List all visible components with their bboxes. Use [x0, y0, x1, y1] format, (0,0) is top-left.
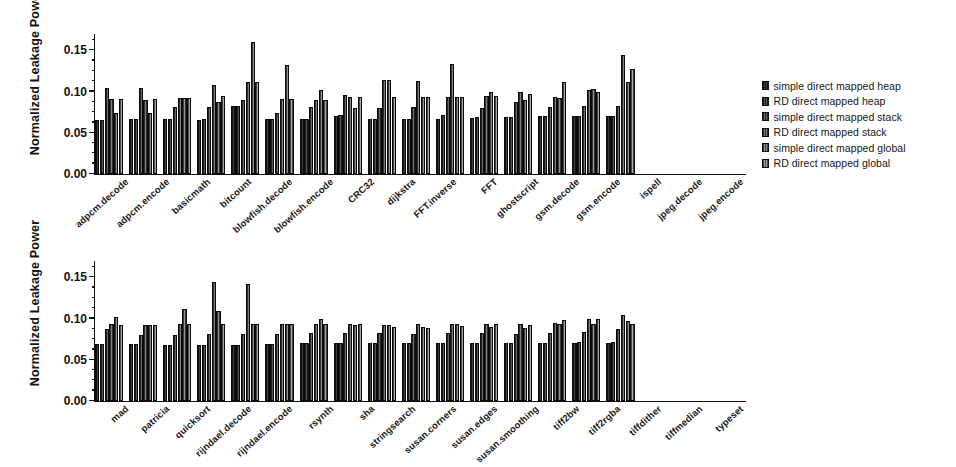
- bar-group: [197, 34, 225, 174]
- legend-item: RD direct mapped global: [762, 156, 956, 172]
- bar-group: [504, 261, 532, 401]
- bar: [139, 335, 143, 401]
- bar: [289, 99, 293, 174]
- bar: [616, 329, 620, 401]
- bar: [489, 92, 493, 174]
- bar: [548, 333, 552, 401]
- bar: [436, 343, 440, 401]
- bar-group: [538, 34, 566, 174]
- bar: [509, 343, 513, 401]
- bar: [460, 326, 464, 401]
- bar: [382, 80, 386, 174]
- plot-area-bottom: 0.000.050.100.15: [95, 267, 745, 401]
- bar-group: [572, 34, 600, 174]
- bar: [187, 324, 191, 401]
- bar: [426, 328, 430, 401]
- bar: [148, 325, 152, 401]
- bar: [251, 324, 255, 401]
- bar: [153, 325, 157, 401]
- legend-swatch-icon: [762, 143, 769, 152]
- bar: [265, 119, 269, 174]
- bar-groups-top: [95, 34, 745, 174]
- legend-item: RD direct mapped stack: [762, 125, 956, 141]
- bar: [216, 311, 220, 401]
- bar: [392, 327, 396, 401]
- x-axis-tick-label: quicksort: [172, 403, 212, 440]
- legend-swatch-icon: [762, 159, 769, 168]
- bar: [621, 315, 625, 401]
- bar: [148, 113, 152, 174]
- bar-group: [265, 261, 293, 401]
- bar: [470, 343, 474, 401]
- bar: [572, 116, 576, 174]
- bar: [216, 102, 220, 174]
- bar-group: [231, 34, 259, 174]
- bar: [450, 64, 454, 174]
- bar-group: [163, 34, 191, 174]
- bar: [168, 345, 172, 401]
- bar: [630, 69, 634, 174]
- bar: [480, 333, 484, 401]
- bar: [343, 333, 347, 401]
- y-axis-tick-label: 0.15: [64, 270, 87, 284]
- bar: [304, 119, 308, 174]
- bar: [221, 96, 225, 174]
- legend-swatch-icon: [762, 112, 769, 121]
- bar: [334, 343, 338, 401]
- bar-group: [334, 261, 362, 401]
- bar: [241, 100, 245, 174]
- legend-swatch-icon: [762, 97, 769, 106]
- bar: [543, 116, 547, 174]
- bar: [280, 324, 284, 401]
- bar: [163, 119, 167, 174]
- bar: [163, 345, 167, 401]
- bar-group: [572, 261, 600, 401]
- legend-item-label: simple direct mapped stack: [774, 111, 903, 123]
- bar: [343, 95, 347, 174]
- bar: [182, 309, 186, 401]
- bar: [178, 324, 182, 401]
- bar-group: [231, 261, 259, 401]
- bar: [100, 120, 104, 174]
- bar: [504, 117, 508, 174]
- legend: simple direct mapped heapRD direct mappe…: [762, 78, 956, 171]
- bar: [319, 319, 323, 401]
- bar: [538, 116, 542, 174]
- legend-item: simple direct mapped global: [762, 140, 956, 156]
- legend-item-label: RD direct mapped heap: [774, 95, 886, 107]
- bar: [411, 334, 415, 401]
- bar: [591, 324, 595, 401]
- bar-group: [95, 34, 123, 174]
- bar: [543, 343, 547, 401]
- bar: [338, 343, 342, 401]
- bar-group: [436, 34, 464, 174]
- y-axis-tick-label: 0.10: [64, 85, 87, 99]
- bar: [114, 317, 118, 401]
- y-axis-title-top: Normalized Leakage Power: [28, 0, 42, 167]
- bar: [246, 82, 250, 174]
- bar: [323, 100, 327, 174]
- bar: [630, 324, 634, 401]
- bar: [494, 324, 498, 401]
- bar-group: [402, 34, 430, 174]
- bar: [134, 119, 138, 174]
- bar: [587, 319, 591, 401]
- bar: [314, 324, 318, 401]
- bar: [304, 343, 308, 401]
- bar-group: [95, 261, 123, 401]
- bar: [436, 119, 440, 174]
- bar: [373, 119, 377, 174]
- bar: [129, 344, 133, 401]
- bar: [285, 324, 289, 401]
- bar: [509, 117, 513, 174]
- bar: [377, 108, 381, 174]
- bar: [562, 320, 566, 401]
- bar-group: [402, 261, 430, 401]
- bar: [606, 343, 610, 401]
- bar: [484, 324, 488, 401]
- x-axis-tick-label: sha: [356, 403, 376, 422]
- bar: [338, 115, 342, 174]
- bar: [528, 94, 532, 174]
- bar: [577, 116, 581, 174]
- bar: [212, 85, 216, 174]
